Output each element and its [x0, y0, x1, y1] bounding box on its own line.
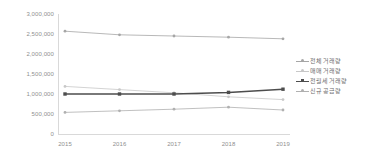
- data-point-marker: [118, 109, 121, 112]
- data-point-marker: [64, 85, 67, 88]
- x-axis-tick-label: 2019: [276, 141, 290, 147]
- y-axis-tick-label: 2,500,000: [26, 31, 54, 37]
- y-axis-tick-label: 1,000,000: [26, 91, 54, 97]
- legend-marker-icon: [296, 87, 309, 96]
- x-axis-tick-label: 2018: [222, 141, 236, 147]
- data-point-marker: [63, 92, 66, 95]
- legend-item[interactable]: 전체 거래량: [296, 56, 384, 66]
- data-point-marker: [227, 95, 230, 98]
- legend-item-label: 전체 거래량: [310, 58, 341, 65]
- x-axis-tick-label: 2016: [113, 141, 127, 147]
- x-axis-tick-label: 2017: [167, 141, 181, 147]
- data-point-marker: [282, 98, 285, 101]
- y-axis-tick-label: 0: [51, 131, 54, 137]
- data-point-marker: [281, 88, 284, 91]
- plot-area: [58, 14, 290, 135]
- y-axis-tick-label: 2,000,000: [26, 51, 54, 57]
- legend-item-label: 전월세 거래량: [310, 78, 347, 85]
- y-axis-tick-label: 500,000: [32, 111, 54, 117]
- data-point-marker: [282, 109, 285, 112]
- y-axis-tick-label: 3,000,000: [26, 11, 54, 17]
- series-4: [64, 106, 285, 114]
- plot-series-svg: [58, 14, 290, 135]
- series-1: [64, 30, 285, 40]
- legend-item[interactable]: 매매 거래량: [296, 66, 384, 76]
- data-point-marker: [227, 106, 230, 109]
- data-point-marker: [64, 30, 67, 33]
- data-point-marker: [227, 36, 230, 39]
- line-chart: 3,000,0002,500,0002,000,0001,500,0001,00…: [0, 0, 386, 162]
- data-point-marker: [118, 88, 121, 91]
- y-axis-tick-label: 1,500,000: [26, 71, 54, 77]
- legend-marker-icon: [296, 67, 309, 76]
- legend-marker-icon: [296, 77, 309, 86]
- x-axis-tick-label: 2015: [58, 141, 72, 147]
- legend-item[interactable]: 전월세 거래량: [296, 76, 384, 86]
- chart-legend: 전체 거래량매매 거래량전월세 거래량신규 공급량: [296, 56, 384, 96]
- data-point-marker: [173, 108, 176, 111]
- data-point-marker: [118, 33, 121, 36]
- legend-item-label: 매매 거래량: [310, 68, 341, 75]
- data-point-marker: [173, 35, 176, 38]
- data-point-marker: [172, 92, 175, 95]
- legend-marker-icon: [296, 57, 309, 66]
- legend-item[interactable]: 신규 공급량: [296, 86, 384, 96]
- data-point-marker: [118, 92, 121, 95]
- data-point-marker: [64, 111, 67, 114]
- data-point-marker: [227, 91, 230, 94]
- legend-item-label: 신규 공급량: [310, 88, 341, 95]
- data-point-marker: [282, 37, 285, 40]
